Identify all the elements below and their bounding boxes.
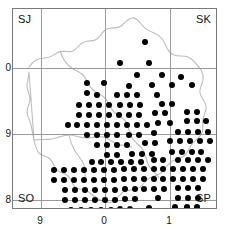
data-point [136,132,142,138]
data-point [169,82,175,88]
data-point [146,60,152,66]
data-point [172,204,178,209]
y-axis-tick-0: 0 [0,62,11,73]
x-axis-tick-9: 9 [33,215,47,226]
data-point [184,118,190,124]
data-point [84,80,90,86]
data-point [187,138,193,144]
data-point [138,159,144,165]
data-point [151,186,157,192]
x-axis-tick-0: 0 [97,215,111,226]
data-point [179,149,185,155]
data-point [78,207,84,209]
data-point [161,186,167,192]
data-point [175,129,181,135]
data-point [139,151,145,157]
data-point [104,152,110,158]
data-point [106,102,112,108]
data-point [62,197,68,203]
data-point [203,118,209,124]
data-point [198,149,204,155]
data-point [134,72,140,78]
data-point [137,102,143,108]
data-point [170,166,176,172]
data-point [101,80,107,86]
data-point [65,122,71,128]
data-point [88,207,94,209]
data-point [136,112,142,118]
data-point [197,138,203,144]
data-point [84,122,90,128]
x-axis-tick-1: 1 [162,215,176,226]
y-axis-tick-9: 9 [0,128,11,139]
data-point [149,151,155,157]
data-point [61,167,67,173]
data-point [185,129,191,135]
data-point [127,206,133,209]
data-point [178,74,184,80]
data-point [102,187,108,193]
data-point [189,82,195,88]
data-point [169,101,175,107]
data-point [141,186,147,192]
data-point [190,176,196,182]
data-point [68,207,74,209]
data-point [126,83,132,89]
data-point [180,166,186,172]
data-point [76,102,82,108]
data-point [194,118,200,124]
data-point [112,197,118,203]
data-point [127,102,133,108]
data-point [155,195,161,201]
data-point [200,166,206,172]
grid-square-label-sp: SP [196,192,211,204]
data-point [71,177,77,183]
data-point [51,177,57,183]
data-point [175,185,181,191]
data-point [121,176,127,182]
data-point [184,204,190,209]
data-point [170,176,176,182]
data-point [89,159,95,165]
data-point [149,82,155,88]
data-point [81,167,87,173]
data-point [131,176,137,182]
data-point [134,122,140,128]
data-point [169,149,175,155]
data-point [92,187,98,193]
data-point [94,142,100,148]
data-point [96,102,102,108]
data-point [98,159,104,165]
data-point [91,167,97,173]
data-point [151,176,157,182]
data-point [160,166,166,172]
data-point [82,187,88,193]
data-point [144,122,150,128]
grid-square-label-sk: SK [196,13,211,25]
data-point [194,109,200,115]
data-point [195,157,201,163]
data-point [114,122,120,128]
data-point [114,132,120,138]
data-point [132,196,138,202]
data-point [72,197,78,203]
data-point [185,157,191,163]
data-point [142,39,148,45]
data-point [124,92,130,98]
y-axis-tick-8: 8 [0,194,11,205]
data-point [167,138,173,144]
data-point [51,167,57,173]
data-point [118,159,124,165]
data-point [162,110,168,116]
grid-square-label-sj: SJ [18,13,31,25]
data-point [155,120,161,126]
data-point [177,138,183,144]
data-point [205,157,211,163]
data-point [94,122,100,128]
data-point [111,167,117,173]
data-point [126,132,132,138]
data-point [185,195,191,201]
grid-square-label-so: SO [18,192,34,204]
data-point [128,159,134,165]
data-point [131,166,137,172]
